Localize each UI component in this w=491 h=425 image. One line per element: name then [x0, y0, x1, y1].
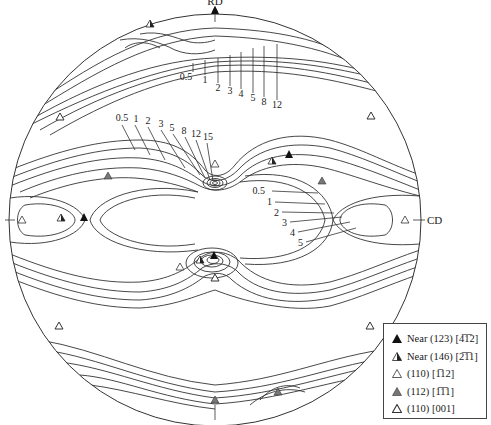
dotted-triangle-icon: [56, 113, 64, 120]
half-filled-triangle-icon: [392, 352, 402, 361]
svg-text:0.5: 0.5: [116, 112, 129, 123]
grey-filled-triangle-icon: [392, 387, 402, 396]
open-triangle-icon: [176, 263, 184, 270]
cd-axis: CD: [5, 214, 442, 226]
svg-text:12: 12: [272, 99, 282, 110]
svg-text:5: 5: [298, 237, 303, 248]
dotted-triangle-icon: [55, 322, 63, 329]
legend-item: (110) [001]: [392, 400, 486, 418]
legend: Near (123) [4̅1̅2] Near (146) [2̅1̅1] (1…: [383, 323, 487, 419]
svg-text:0.5: 0.5: [180, 71, 193, 82]
legend-item: (110) [1̅12]: [392, 365, 486, 383]
open-triangle-icon: [392, 369, 402, 378]
open-triangle-icon: [18, 216, 26, 223]
svg-text:5: 5: [170, 122, 175, 133]
svg-text:2: 2: [146, 115, 151, 126]
svg-text:2: 2: [274, 207, 279, 218]
filled-triangle-icon: [211, 6, 219, 14]
dotted-triangle-icon: [366, 322, 374, 329]
rd-label: RD: [207, 0, 222, 7]
svg-text:3: 3: [228, 85, 233, 96]
legend-item: Near (146) [2̅1̅1]: [392, 348, 486, 366]
svg-text:3: 3: [282, 217, 287, 228]
svg-text:8: 8: [262, 96, 267, 107]
svg-text:5: 5: [251, 92, 256, 103]
svg-text:1: 1: [203, 74, 208, 85]
svg-text:1: 1: [134, 113, 139, 124]
svg-text:2: 2: [216, 82, 221, 93]
dotted-triangle-icon: [367, 112, 375, 119]
svg-text:15: 15: [203, 131, 213, 142]
half-filled-triangle-icon: [268, 157, 276, 164]
dotted-triangle-icon: [392, 404, 402, 413]
grey-filled-triangle-icon: [104, 172, 112, 179]
grey-filled-triangle-icon: [211, 396, 219, 403]
half-filled-triangle-icon: [196, 256, 204, 263]
center-contour-leaders: 0.5 1 2 3 5 8 12 15: [116, 112, 213, 181]
svg-text:4: 4: [290, 227, 295, 238]
svg-text:12: 12: [191, 128, 201, 139]
svg-text:3: 3: [159, 118, 164, 129]
cd-label: CD: [427, 214, 442, 226]
svg-text:4: 4: [239, 88, 244, 99]
legend-item: Near (123) [4̅1̅2]: [392, 330, 486, 348]
svg-text:0.5: 0.5: [253, 185, 266, 196]
half-filled-triangle-icon: [57, 214, 65, 221]
legend-item: (112) [1̅1̅1]: [392, 383, 486, 401]
svg-text:8: 8: [182, 125, 187, 136]
grey-filled-triangle-icon: [318, 177, 326, 184]
filled-triangle-icon: [80, 213, 88, 221]
open-triangle-icon: [211, 160, 219, 167]
filled-triangle-icon: [285, 150, 293, 158]
svg-text:1: 1: [267, 196, 272, 207]
open-triangle-icon: [401, 216, 409, 223]
filled-triangle-icon: [392, 334, 402, 343]
